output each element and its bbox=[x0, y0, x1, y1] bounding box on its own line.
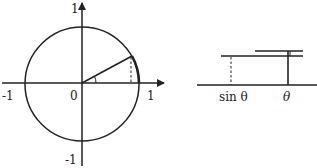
label-sin-theta: sin θ bbox=[219, 90, 248, 104]
arc-theta-highlight bbox=[132, 56, 139, 83]
segment-comparison-diagram: sin θ θ bbox=[197, 51, 317, 104]
label-origin: 0 bbox=[70, 89, 78, 103]
label-y-neg: -1 bbox=[65, 153, 77, 167]
label-x-pos: 1 bbox=[147, 89, 155, 103]
angle-marker bbox=[95, 77, 97, 84]
label-y-pos: 1 bbox=[71, 2, 79, 16]
label-x-neg: -1 bbox=[2, 89, 14, 103]
figure: 1 -1 0 1 -1 sin θ θ bbox=[0, 0, 317, 168]
radius-line bbox=[82, 56, 132, 83]
label-theta: θ bbox=[283, 90, 291, 104]
unit-circle-diagram: 1 -1 0 1 -1 bbox=[2, 2, 164, 167]
